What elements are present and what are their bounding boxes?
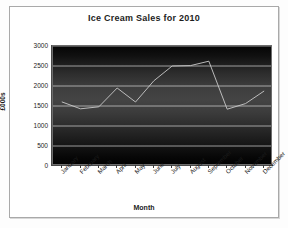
x-tick-label: April [114, 161, 128, 175]
x-axis-tick-labels: JanuaryFebruaryMarchAprilMayJuneJulyAugu… [0, 0, 288, 228]
x-tick-label: February [78, 152, 100, 174]
x-tick-label: March [96, 158, 113, 175]
x-tick-label: January [59, 154, 80, 175]
chart-page: Ice Cream Sales for 2010 050010001500200… [0, 0, 288, 228]
x-tick-label: May [133, 162, 146, 175]
x-tick-label: June [151, 161, 165, 175]
x-axis-title: Month [0, 204, 288, 211]
